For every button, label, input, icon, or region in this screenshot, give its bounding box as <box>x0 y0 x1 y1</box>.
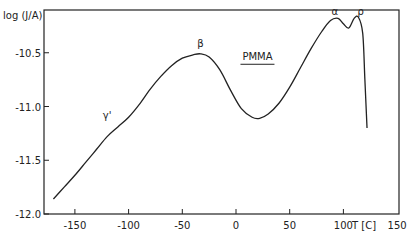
x-tick-label: -50 <box>174 220 190 231</box>
x-tick-label: 150 <box>388 220 407 231</box>
y-tick-label: -11.0 <box>15 102 41 113</box>
annotation-peak: α <box>332 6 339 17</box>
x-tick-label: -100 <box>117 220 140 231</box>
annotation-peak: ρ <box>357 6 363 17</box>
y-axis-label: log (J/A) <box>3 10 42 21</box>
annotation-peak: β <box>197 38 203 49</box>
x-tick-label: 50 <box>283 220 296 231</box>
x-tick-label: 100 <box>334 220 353 231</box>
y-tick-label: -10.5 <box>15 48 41 59</box>
plot-frame <box>44 10 399 214</box>
chart: -10.5-11.0-11.5-12.0 -150-100-5005010015… <box>0 0 415 235</box>
peak-annotations: γ'βPMMAαρ <box>103 6 364 121</box>
y-tick-label: -12.0 <box>15 209 41 220</box>
y-tick-label: -11.5 <box>15 155 41 166</box>
annotation-peak: γ' <box>103 110 112 121</box>
pmma-curve <box>53 16 367 199</box>
x-tick-label: 0 <box>233 220 239 231</box>
annotation-pmma: PMMA <box>242 51 272 62</box>
x-axis-label: T [C] <box>351 220 376 231</box>
x-tick-label: -150 <box>64 220 87 231</box>
